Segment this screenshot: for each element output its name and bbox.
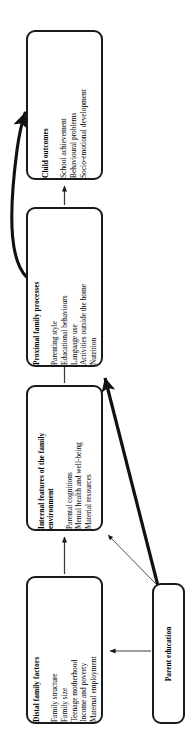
node-child-outcomes-items: School achievement Behavioural problems … <box>59 32 88 178</box>
node-internal-features-title-line-2: environment <box>46 387 55 529</box>
node-distal-family-factors: Distal family factors Family structure F… <box>26 576 103 724</box>
list-item: Parenting style <box>50 209 60 365</box>
node-child-outcomes-title: Child outcomes <box>41 32 50 178</box>
list-item: Language use <box>69 209 79 365</box>
list-item: Behavioural problems <box>69 32 79 178</box>
node-internal-features-title-line-1: Internal features of the family <box>36 387 45 529</box>
list-item: Socio-emotional development <box>79 32 89 178</box>
node-proximal-family-processes-content: Proximal family processes Parenting styl… <box>31 209 97 365</box>
node-distal-family-factors-title: Distal family factors <box>31 578 40 722</box>
node-proximal-family-processes: Proximal family processes Parenting styl… <box>26 207 103 367</box>
node-parent-education: Parent education <box>152 583 185 724</box>
list-item: Nutrition <box>88 209 98 365</box>
list-item: Teenage motherhood <box>69 578 79 722</box>
spacer <box>55 387 64 529</box>
connector-proximal-curve-to-child-outcomes <box>12 113 27 277</box>
node-child-outcomes-content: Child outcomes School achievement Behavi… <box>41 32 88 178</box>
list-item: Mental health and well-being <box>74 387 84 529</box>
list-item: Educational behaviours <box>59 209 69 365</box>
node-parent-education-content: Parent education <box>164 585 173 722</box>
node-proximal-family-processes-title: Proximal family processes <box>31 209 40 365</box>
diagram-canvas: Child outcomes School achievement Behavi… <box>0 0 194 732</box>
list-item: Family structure <box>50 578 60 722</box>
node-internal-features-items: Parental cognitions Mental health and we… <box>64 387 93 529</box>
node-child-outcomes: Child outcomes School achievement Behavi… <box>26 30 103 180</box>
spacer <box>50 32 59 178</box>
list-item: Activities outside the home <box>79 209 89 365</box>
node-distal-family-factors-content: Distal family factors Family structure F… <box>31 578 97 722</box>
node-internal-features-title: Internal features of the family environm… <box>36 387 55 529</box>
node-parent-education-title: Parent education <box>164 585 173 722</box>
list-item: Maternal employment <box>88 578 98 722</box>
connector-parent-education-to-proximal <box>105 378 158 586</box>
node-internal-features: Internal features of the family environm… <box>26 385 103 531</box>
list-item: Income and poverty <box>79 578 89 722</box>
list-item: Family size <box>59 578 69 722</box>
list-item: School achievement <box>59 32 69 178</box>
connector-parent-education-to-internal <box>108 535 157 585</box>
list-item: Material resources <box>83 387 93 529</box>
spacer <box>41 578 50 722</box>
node-distal-family-factors-items: Family structure Family size Teenage mot… <box>50 578 98 722</box>
spacer <box>41 209 50 365</box>
node-proximal-family-processes-items: Parenting style Educational behaviours L… <box>50 209 98 365</box>
node-internal-features-content: Internal features of the family environm… <box>36 387 93 529</box>
list-item: Parental cognitions <box>64 387 74 529</box>
